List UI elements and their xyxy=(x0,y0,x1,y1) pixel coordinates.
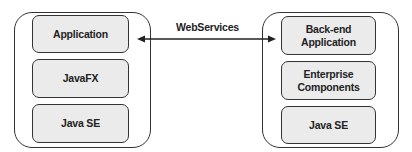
webservices-label: WebServices xyxy=(176,21,239,33)
